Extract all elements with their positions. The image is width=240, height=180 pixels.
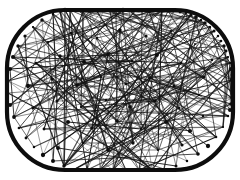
interior-node xyxy=(115,119,118,122)
perimeter-node xyxy=(196,152,200,156)
perimeter-node xyxy=(186,160,189,163)
perimeter-node xyxy=(209,26,211,28)
interior-node xyxy=(118,28,121,31)
interior-node xyxy=(125,83,128,86)
interior-node xyxy=(47,41,49,43)
interior-node xyxy=(96,37,99,40)
perimeter-node xyxy=(16,44,19,47)
perimeter-node xyxy=(25,137,28,140)
interior-node xyxy=(131,141,134,144)
figure-root: Chord mesh inside stadium outline xyxy=(0,0,240,180)
interior-node xyxy=(35,62,37,64)
perimeter-node xyxy=(215,136,218,139)
interior-node xyxy=(80,106,82,108)
perimeter-node xyxy=(18,127,21,130)
perimeter-node xyxy=(12,115,16,119)
perimeter-node xyxy=(222,126,224,128)
interior-node xyxy=(90,126,93,129)
interior-node xyxy=(100,76,102,78)
perimeter-node xyxy=(41,153,45,157)
perimeter-node xyxy=(51,159,55,163)
interior-node xyxy=(180,143,183,146)
interior-node xyxy=(155,53,159,57)
interior-node xyxy=(128,105,132,109)
interior-node xyxy=(82,60,86,64)
interior-node xyxy=(173,85,175,87)
interior-node xyxy=(140,128,142,130)
interior-node xyxy=(198,94,200,96)
interior-node xyxy=(106,148,110,152)
perimeter-node xyxy=(212,29,215,32)
perimeter-node xyxy=(227,115,229,117)
interior-node xyxy=(26,84,30,88)
interior-node xyxy=(43,128,46,131)
perimeter-node xyxy=(220,40,223,43)
perimeter-node xyxy=(23,34,26,37)
perimeter-node xyxy=(225,50,228,53)
perimeter-node xyxy=(62,164,65,167)
interior-node xyxy=(56,146,60,150)
interior-node xyxy=(119,89,121,91)
perimeter-node xyxy=(227,56,229,58)
interior-node xyxy=(178,107,181,110)
interior-node xyxy=(58,54,61,57)
perimeter-node xyxy=(206,144,210,148)
interior-node xyxy=(75,83,79,87)
interior-node xyxy=(180,62,183,65)
interior-node xyxy=(82,142,85,145)
perimeter-node xyxy=(40,18,43,21)
interior-node xyxy=(69,31,72,34)
interior-node xyxy=(131,60,133,62)
perimeter-node xyxy=(33,146,36,149)
perimeter-node xyxy=(200,19,202,21)
interior-node xyxy=(106,52,110,56)
interior-node xyxy=(144,34,147,37)
interior-node xyxy=(50,77,53,80)
interior-node xyxy=(153,99,157,103)
perimeter-node xyxy=(222,44,225,47)
interior-node xyxy=(202,115,204,117)
interior-node xyxy=(170,30,172,32)
perimeter-node xyxy=(217,35,220,38)
interior-node xyxy=(66,120,70,124)
interior-node xyxy=(211,59,213,61)
interior-node xyxy=(55,99,58,102)
perimeter-node xyxy=(32,26,34,28)
perimeter-node xyxy=(203,21,206,24)
interior-node xyxy=(188,129,192,133)
interior-node xyxy=(32,107,35,110)
perimeter-node xyxy=(175,165,178,168)
interior-node xyxy=(157,149,159,151)
interior-node xyxy=(164,120,168,124)
interior-node xyxy=(202,75,205,78)
perimeter-node xyxy=(11,55,15,59)
interior-node xyxy=(148,76,151,79)
interior-node xyxy=(105,99,108,102)
chord-mesh-canvas xyxy=(0,0,240,180)
interior-node xyxy=(194,43,196,45)
